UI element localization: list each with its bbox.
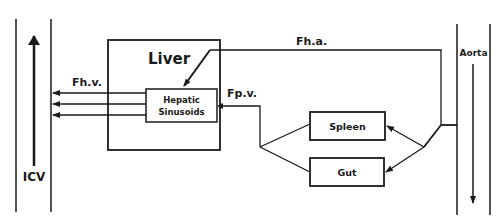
gut-label: Gut xyxy=(337,167,357,178)
celiac-trunk-line xyxy=(424,125,441,147)
spleen-artery-arrow-icon xyxy=(387,126,424,147)
portal-vein-label: Fp.v. xyxy=(227,87,257,100)
gut: Gut xyxy=(310,158,384,186)
spleen: Spleen xyxy=(310,112,385,140)
icv-vessel: ICV xyxy=(16,19,51,212)
portal-vein-line xyxy=(219,106,260,147)
gut-to-portal-line xyxy=(260,147,310,172)
gut-artery-arrow-icon xyxy=(386,147,424,172)
sinusoids-label-line2: Sinusoids xyxy=(158,107,204,117)
spleen-to-portal-line xyxy=(260,124,310,147)
portal-vein-flow: Fp.v. xyxy=(217,87,310,172)
icv-label: ICV xyxy=(23,170,46,184)
aorta-vessel: Aorta xyxy=(457,24,490,215)
hepatic-sinusoids: Hepatic Sinusoids xyxy=(146,89,217,122)
aorta-branches xyxy=(386,125,457,172)
liver-label: Liver xyxy=(148,50,191,68)
sinusoids-box xyxy=(146,89,217,122)
hepatic-vein-label: Fh.v. xyxy=(72,76,102,89)
hepatic-artery-label: Fh.a. xyxy=(296,35,327,48)
sinusoids-label-line1: Hepatic xyxy=(163,95,200,105)
liver-blood-flow-diagram: ICV Fh.v. Liver Hepatic Sinusoids Fh.a. … xyxy=(0,0,502,219)
hepatic-vein-flows: Fh.v. xyxy=(53,76,146,115)
spleen-label: Spleen xyxy=(329,121,366,132)
aorta-label: Aorta xyxy=(460,48,488,58)
